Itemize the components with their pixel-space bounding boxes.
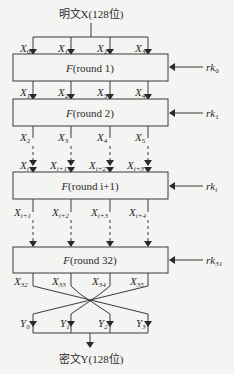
round-i-plus-1-box: F(round i+1) [13,172,168,199]
svg-text:X33: X33 [51,275,66,289]
svg-text:F(round i+1): F(round i+1) [60,180,119,193]
round-key-i: rki [170,180,217,194]
svg-text:Xi+3: Xi+3 [126,159,144,173]
svg-text:Xi+1: Xi+1 [49,159,67,173]
svg-text:Xi+3: Xi+3 [90,206,108,220]
sm4-structure-diagram-lower: Xi Xi+1 Xi+2 Xi+3 F(round i+1) rki Xi+1 … [0,0,234,374]
round-key-31: rk31 [170,254,222,268]
svg-text:Xi+2: Xi+2 [51,206,69,220]
svg-text:Y1: Y1 [60,317,70,331]
round-i-inputs: Xi Xi+1 Xi+2 Xi+3 [19,159,148,173]
svg-text:rk31: rk31 [206,254,222,268]
ciphertext-label: 密文Y(128位) [59,352,124,366]
svg-text:F(round 32): F(round 32) [62,254,117,267]
svg-text:X32: X32 [13,275,28,289]
svg-text:Xi: Xi [19,159,29,173]
svg-text:Y0: Y0 [20,317,30,331]
svg-text:Xi+2: Xi+2 [88,159,106,173]
svg-text:rki: rki [206,180,217,194]
svg-text:Xi+1: Xi+1 [13,206,31,220]
svg-text:Y2: Y2 [98,317,108,331]
dashed-continuation-2 [33,220,148,246]
svg-text:Y3: Y3 [136,317,146,331]
round-32-box: F(round 32) [13,247,168,273]
round-i-outputs: Xi+1 Xi+2 Xi+3 Xi+4 [13,199,148,220]
svg-text:Xi+4: Xi+4 [128,206,146,220]
svg-text:X34: X34 [91,275,106,289]
svg-text:X35: X35 [129,275,144,289]
ciphertext-words: Y0 Y1 Y2 Y3 [20,317,146,331]
